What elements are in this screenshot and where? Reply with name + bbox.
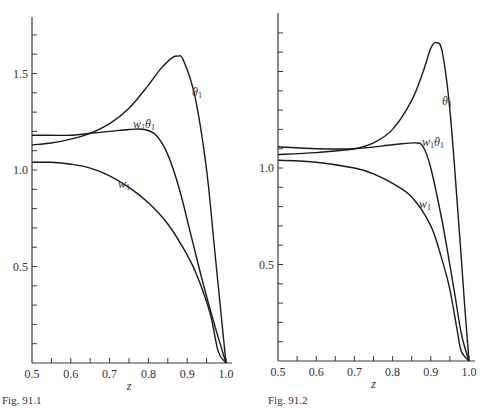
x-tick-label: 0.8 bbox=[385, 365, 400, 379]
figure-canvas: 0.51.01.50.50.60.70.80.91.0zFig. 91.1θ1w… bbox=[0, 0, 492, 412]
y-tick-label: 1.5 bbox=[13, 67, 28, 81]
x-tick-label: 0.9 bbox=[180, 367, 195, 381]
x-axis-label: z bbox=[370, 377, 376, 391]
y-tick-label: 1.0 bbox=[259, 161, 274, 175]
x-tick-label: 0.9 bbox=[423, 365, 438, 379]
curve-w1 bbox=[278, 160, 469, 361]
x-tick-label: 0.8 bbox=[141, 367, 156, 381]
curve-label: w1 bbox=[419, 197, 431, 212]
chart-fig-91-2: 0.51.00.50.60.70.80.91.0zFig. 91.2θ1w1θ1… bbox=[259, 13, 477, 406]
figure-caption: Fig. 91.1 bbox=[2, 394, 41, 406]
x-tick-label: 1.0 bbox=[219, 367, 234, 381]
y-tick-label: 0.5 bbox=[259, 258, 274, 272]
curve-label: w1θ1 bbox=[133, 117, 155, 132]
curve-label: w1θ1 bbox=[422, 135, 444, 150]
x-tick-label: 0.5 bbox=[271, 365, 286, 379]
x-tick-label: 0.6 bbox=[309, 365, 324, 379]
x-tick-label: 1.0 bbox=[462, 365, 477, 379]
curve-label: θ1 bbox=[442, 94, 452, 109]
curve-label: w1 bbox=[118, 177, 130, 192]
x-tick-label: 0.5 bbox=[25, 367, 40, 381]
chart-fig-91-1: 0.51.01.50.50.60.70.80.91.0zFig. 91.1θ1w… bbox=[2, 17, 234, 406]
x-tick-label: 0.6 bbox=[63, 367, 78, 381]
curve-theta1 bbox=[278, 42, 469, 361]
y-tick-label: 1.0 bbox=[13, 163, 28, 177]
curve-label: θ1 bbox=[192, 85, 202, 100]
curve-w1 bbox=[32, 162, 226, 363]
curve-w1theta1 bbox=[32, 129, 226, 363]
curve-theta1 bbox=[32, 56, 226, 363]
x-tick-label: 0.7 bbox=[102, 367, 117, 381]
y-tick-label: 0.5 bbox=[13, 260, 28, 274]
x-axis-label: z bbox=[126, 379, 132, 393]
figure-caption: Fig. 91.2 bbox=[268, 394, 307, 406]
x-tick-label: 0.7 bbox=[347, 365, 362, 379]
